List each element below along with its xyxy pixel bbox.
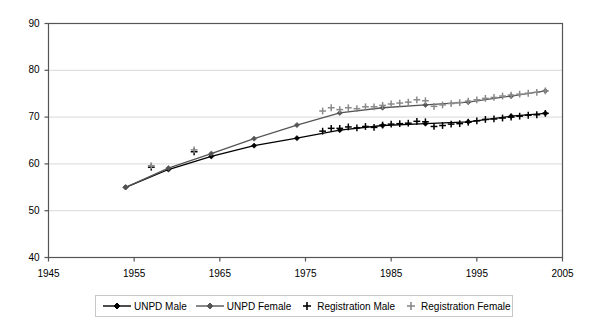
series-line (126, 113, 546, 187)
series-registration-male (148, 110, 549, 171)
legend-line-marker-icon (102, 300, 132, 312)
y-tick-label: 40 (16, 253, 40, 263)
data-point-marker (516, 113, 523, 120)
plot-frame (45, 24, 563, 262)
data-point-marker (396, 120, 403, 127)
data-point-marker (431, 123, 438, 130)
data-point-marker (422, 97, 429, 104)
data-point-marker (465, 98, 472, 105)
data-point-marker (473, 96, 480, 103)
y-tick-label: 60 (16, 159, 40, 169)
data-point-marker (499, 115, 506, 122)
legend-item-registration-female[interactable]: Registration Female (403, 296, 510, 316)
data-point-marker (439, 102, 446, 109)
x-tick-label: 1995 (457, 269, 497, 279)
data-point-marker (525, 112, 532, 119)
data-point-marker (525, 90, 532, 97)
legend-item-label: UNPD Female (227, 301, 291, 312)
data-point-marker (371, 124, 378, 131)
data-point-marker (319, 108, 326, 115)
data-point-marker (405, 120, 412, 127)
chart-legend: UNPD MaleUNPD FemaleRegistration MaleReg… (95, 295, 513, 317)
y-tick-label: 80 (16, 65, 40, 75)
legend-item-registration-male[interactable]: Registration Male (299, 296, 395, 316)
legend-plus-icon (403, 300, 419, 312)
series-unpd-female (123, 88, 548, 190)
plot-area (0, 0, 606, 329)
legend-line-marker-icon (195, 300, 225, 312)
series-line (126, 91, 546, 187)
x-tick-label: 1945 (29, 269, 69, 279)
data-point-marker (294, 122, 299, 127)
legend-item-unpd-female[interactable]: UNPD Female (195, 296, 291, 316)
legend-item-label: Registration Female (421, 301, 510, 312)
data-point-marker (294, 136, 299, 141)
data-point-marker (362, 123, 369, 130)
data-point-marker (482, 95, 489, 102)
x-tick-label: 1965 (200, 269, 240, 279)
data-point-marker (354, 124, 361, 131)
data-point-marker (508, 114, 515, 121)
legend-item-label: UNPD Male (134, 301, 187, 312)
data-point-marker (252, 143, 257, 148)
data-point-marker (499, 93, 506, 100)
data-point-marker (379, 122, 386, 129)
data-point-marker (542, 87, 549, 94)
y-tick-label: 90 (16, 19, 40, 29)
y-tick-label: 70 (16, 112, 40, 122)
data-point-marker (413, 96, 420, 103)
data-point-marker (448, 100, 455, 107)
data-point-marker (252, 136, 257, 141)
data-point-marker (345, 104, 352, 111)
data-point-marker (405, 99, 412, 106)
data-point-marker (491, 116, 498, 123)
y-tick-label: 50 (16, 206, 40, 216)
data-point-marker (148, 162, 155, 169)
data-point-marker (456, 99, 463, 106)
legend-item-label: Registration Male (317, 301, 395, 312)
data-point-marker (542, 110, 549, 117)
x-tick-label: 2005 (543, 269, 583, 279)
data-point-marker (465, 119, 472, 126)
data-point-marker (473, 117, 480, 124)
data-point-marker (533, 89, 540, 96)
legend-item-unpd-male[interactable]: UNPD Male (102, 296, 187, 316)
x-tick-label: 1985 (371, 269, 411, 279)
data-point-marker (491, 94, 498, 101)
data-point-marker (456, 120, 463, 127)
legend-plus-icon (299, 300, 315, 312)
data-point-marker (448, 121, 455, 128)
x-tick-label: 1975 (286, 269, 326, 279)
data-point-marker (396, 100, 403, 107)
plot-border (49, 24, 563, 258)
chart-container: 405060708090 194519551965197519851995200… (0, 0, 606, 329)
series-unpd-male (123, 111, 548, 190)
x-tick-label: 1955 (114, 269, 154, 279)
data-point-marker (508, 92, 515, 99)
data-point-marker (516, 91, 523, 98)
series-layer (123, 87, 549, 189)
data-point-marker (328, 104, 335, 111)
data-point-marker (123, 185, 128, 190)
data-point-marker (388, 121, 395, 128)
